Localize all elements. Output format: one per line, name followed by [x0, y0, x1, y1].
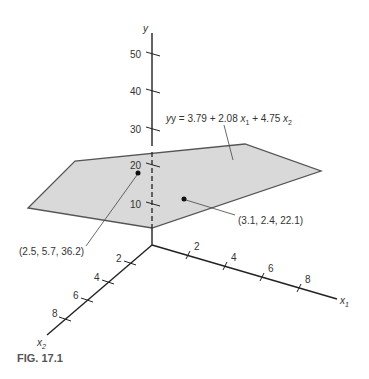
- x1-tick-2: 2: [194, 241, 200, 252]
- figure-canvas: 50 40 30 20 10 y 2 4 6 8 x1 2 4 6 8 x2: [0, 0, 369, 379]
- y-tick-30: 30: [130, 124, 142, 135]
- figure-caption: FIG. 17.1: [17, 352, 63, 364]
- y-tick-10: 10: [130, 199, 142, 210]
- x1-tick-8: 8: [305, 274, 311, 285]
- x2-tick-6: 6: [73, 290, 79, 301]
- regression-equation: yy = 3.79 + 2.08 x1 + 4.75 x2: [165, 113, 292, 126]
- x2-axis-label: x2: [36, 337, 46, 350]
- data-point-2: [182, 197, 187, 202]
- data-point-1: [136, 171, 141, 176]
- x2-tick-2: 2: [116, 253, 122, 264]
- x1-tick-6: 6: [268, 263, 274, 274]
- regression-plane-figure: 50 40 30 20 10 y 2 4 6 8 x1 2 4 6 8 x2: [0, 0, 369, 379]
- y-tick-50: 50: [130, 49, 142, 60]
- x1-axis-label: x1: [339, 295, 349, 308]
- point-2-label: (3.1, 2.4, 22.1): [238, 215, 303, 226]
- x1-axis: [152, 245, 337, 299]
- x1-tick-4: 4: [231, 252, 237, 263]
- x2-tick-4: 4: [94, 272, 100, 283]
- x2-axis: [47, 245, 152, 335]
- point-1-label: (2.5, 5.7, 36.2): [19, 246, 84, 257]
- x2-tick-8: 8: [52, 308, 58, 319]
- y-axis-label: y: [142, 23, 149, 34]
- y-tick-40: 40: [130, 86, 142, 97]
- y-tick-20: 20: [130, 160, 142, 171]
